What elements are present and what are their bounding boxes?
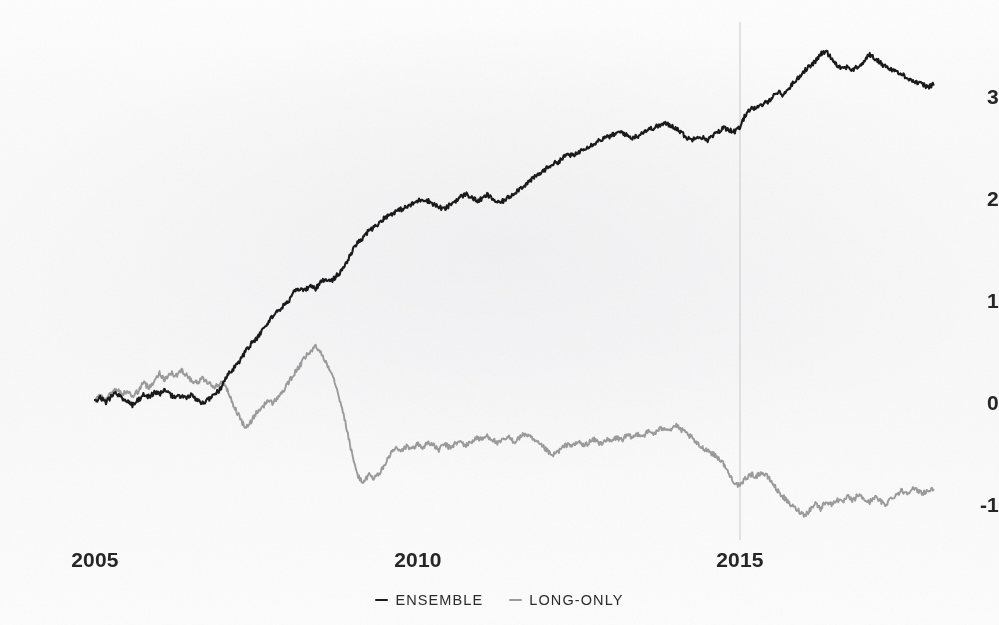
dash-marker-icon xyxy=(375,599,388,602)
x-axis-tick-2010: 2010 xyxy=(394,548,442,572)
y-axis-tick-2: 2 xyxy=(937,187,999,211)
series-line-ensemble xyxy=(95,51,934,407)
legend-label-long-only: LONG-ONLY xyxy=(529,592,623,608)
x-axis-tick-2015: 2015 xyxy=(716,548,764,572)
dash-marker-icon xyxy=(509,599,522,602)
y-axis-tick-1: 1 xyxy=(937,289,999,313)
y-axis-tick-neg1: -1 xyxy=(937,493,999,517)
x-axis-tick-2005: 2005 xyxy=(71,548,119,572)
chart-plot-area xyxy=(0,0,999,625)
chart-figure: 3 2 1 0 -1 2005 2010 2015 ENSEMBLE LONG-… xyxy=(0,0,999,625)
series-line-long-only xyxy=(95,345,934,517)
legend-item-ensemble[interactable]: ENSEMBLE xyxy=(375,592,483,608)
chart-legend: ENSEMBLE LONG-ONLY xyxy=(0,592,999,608)
y-axis-tick-3: 3 xyxy=(937,85,999,109)
legend-item-long-only[interactable]: LONG-ONLY xyxy=(509,592,623,608)
legend-label-ensemble: ENSEMBLE xyxy=(395,592,483,608)
y-axis-tick-0: 0 xyxy=(937,391,999,415)
